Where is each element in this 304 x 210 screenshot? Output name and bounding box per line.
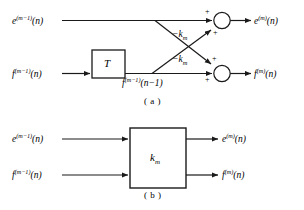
delayed-signal-label: f(m−1)(n−1)	[122, 77, 163, 89]
gain-label-top: −km	[172, 30, 187, 41]
gain-label-bottom: −km	[172, 55, 187, 66]
panel-b-e-input-label: e(m−1)(n)	[12, 133, 43, 145]
panel-b-f-output-label: f(m)(n)	[222, 169, 244, 181]
caption-a: ( a )	[144, 97, 161, 106]
adder-sign-top-lower: +	[213, 29, 218, 37]
caption-b: ( b )	[144, 191, 162, 200]
lattice-stage-figure: e(m−1)(n) f(m−1)(n) T f(m−1)(n−1) −km −k…	[0, 0, 304, 210]
adder-sign-bottom-left: +	[205, 76, 210, 84]
summing-junction-top	[214, 12, 230, 28]
adder-sign-bottom-upper: +	[212, 55, 217, 63]
panel-a-e-input-label: e(m−1)(n)	[12, 15, 43, 27]
panel-b-f-input-label: f(m−1)(n)	[12, 169, 42, 181]
adder-sign-top-left: +	[205, 8, 210, 16]
delay-block-label: T	[104, 58, 110, 69]
panel-a-f-input-label: f(m−1)(n)	[12, 68, 42, 80]
panel-a-e-output-label: e(m)(n)	[254, 15, 278, 27]
summing-junction-bottom	[214, 65, 230, 81]
panel-b-e-output-label: e(m)(n)	[222, 133, 246, 145]
gain-block-label: km	[150, 152, 160, 166]
panel-a-f-output-label: f(m)(n)	[254, 68, 276, 80]
